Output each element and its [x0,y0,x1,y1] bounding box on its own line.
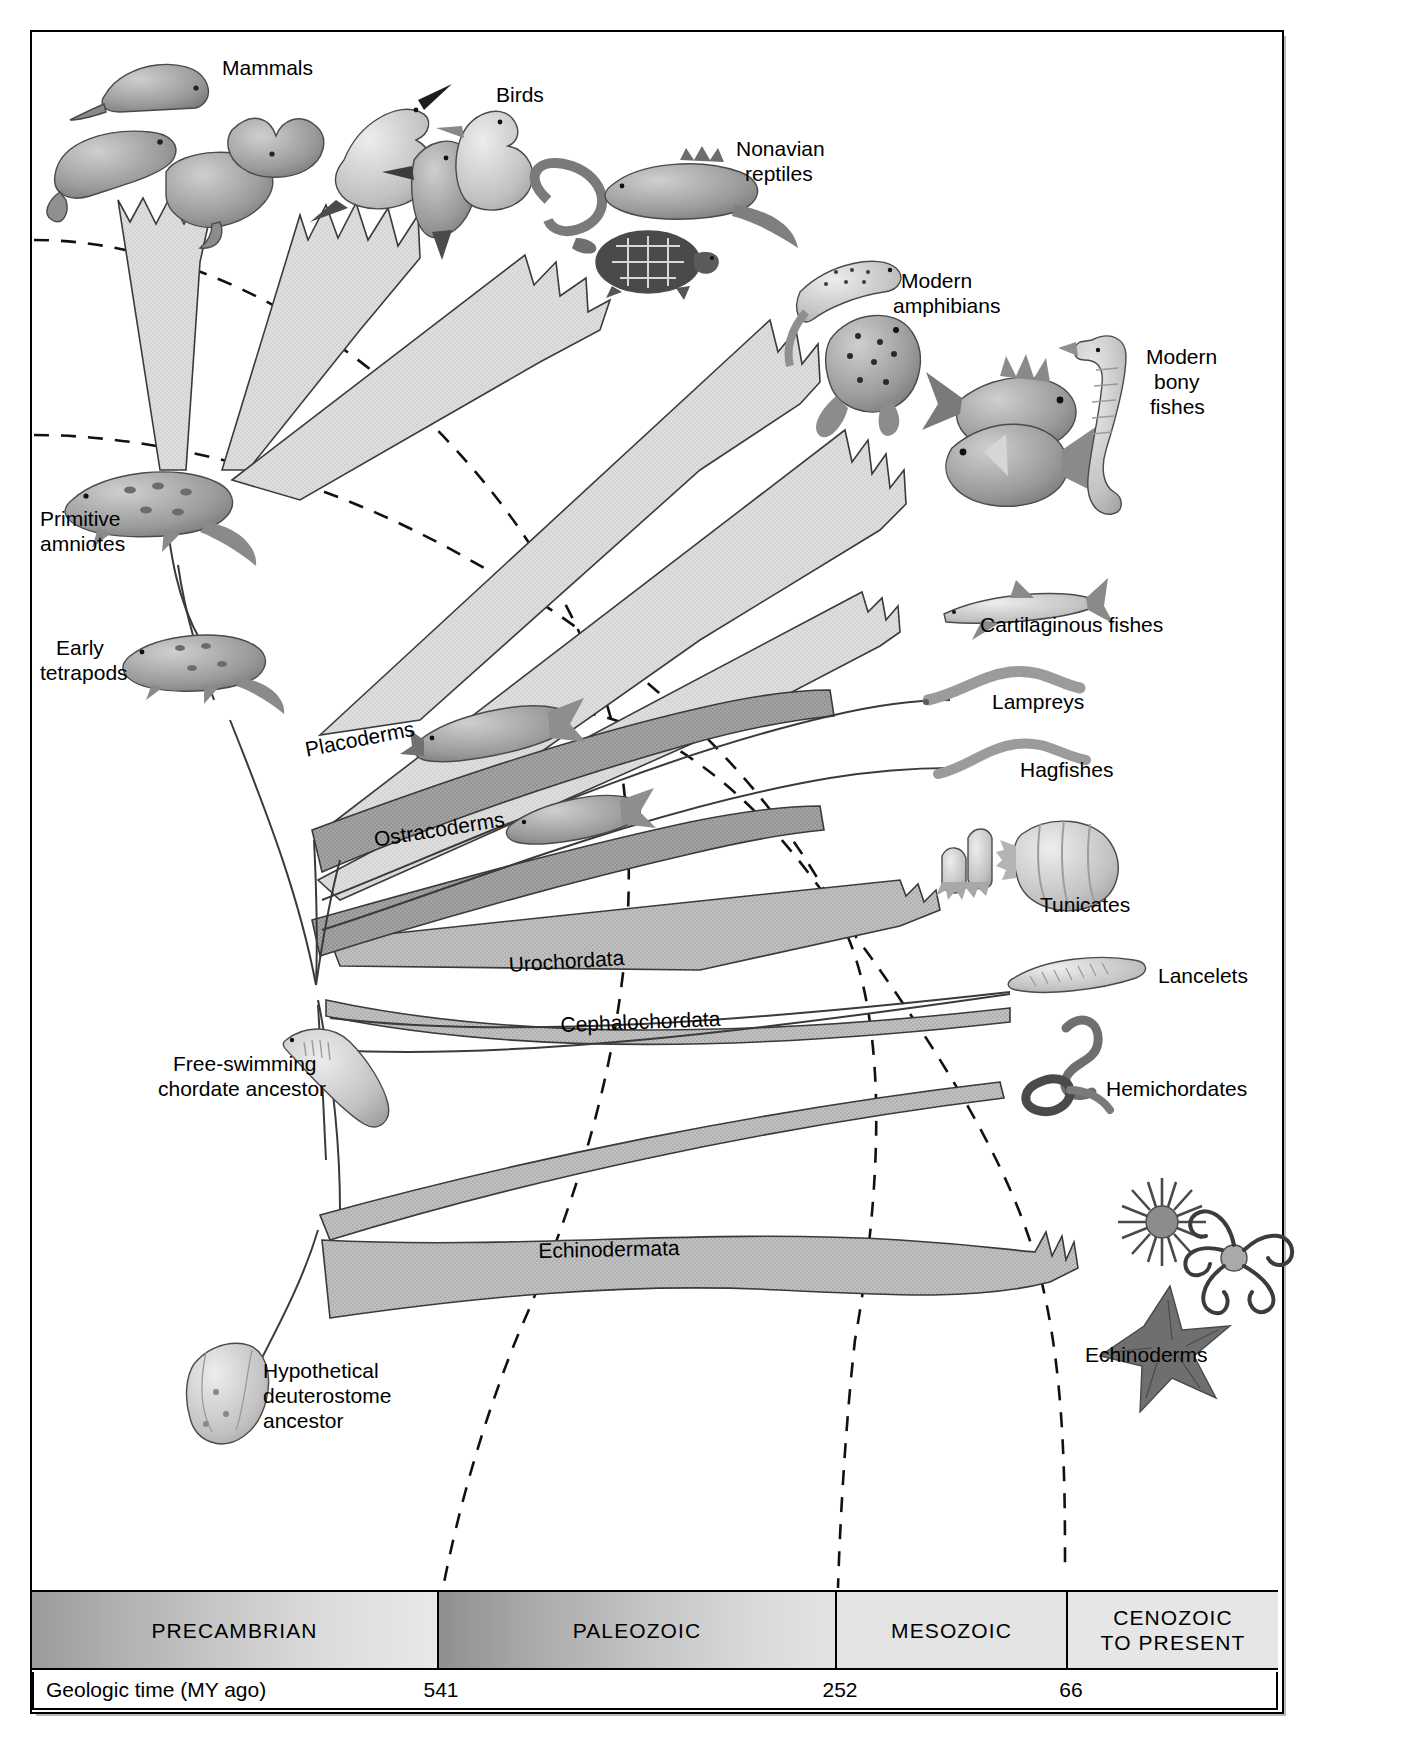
clade-bands [118,197,1078,1318]
label-free-swimming-line2: chordate ancestor [158,1076,326,1101]
illus-acorn-worm [1026,1020,1110,1112]
label-modern-bony-fishes-line3: fishes [1150,394,1205,419]
illus-bat [228,118,324,177]
geologic-time-label: Geologic time (MY ago) [46,1678,266,1702]
illus-bony-fish-lower [946,424,1102,506]
label-modern-bony-fishes-line1: Modern [1146,344,1217,369]
label-cartilaginous-fishes: Cartilaginous fishes [980,612,1163,637]
band-echinodermata [322,1232,1078,1318]
line-node-fan-1 [314,840,317,985]
label-modern-amphibians-line2: amphibians [893,293,1000,318]
era-mesozoic-label: MESOZOIC [891,1618,1012,1643]
ancestor-lines [162,480,340,1382]
illus-otter [47,131,176,221]
label-hagfishes: Hagfishes [1020,757,1113,782]
illus-turtle [596,231,719,300]
era-cenozoic-label-line2: TO PRESENT [1101,1631,1246,1654]
label-nonavian-reptiles-line2: reptiles [745,161,813,186]
illus-snake [535,163,602,254]
illus-lancelet [1008,957,1145,992]
label-tunicates: Tunicates [1040,892,1130,917]
label-primitive-amniotes-line1: Primitive [40,506,121,531]
label-primitive-amniotes-line2: amniotes [40,531,125,556]
label-hypothetical-line1: Hypothetical [263,1358,379,1383]
band-mammals [118,197,208,470]
illus-brittle-star [1185,1211,1292,1313]
label-mammals: Mammals [222,55,313,80]
figure-root: Mammals Birds Nonavian reptiles Modern a… [0,0,1402,1742]
phylogeny-canvas [0,0,1402,1742]
illus-frog [816,315,920,437]
label-hemichordates: Hemichordates [1106,1076,1247,1101]
label-free-swimming-line1: Free-swimming [173,1051,317,1076]
time-tick-66: 66 [1059,1678,1082,1702]
label-birds: Birds [496,82,544,107]
label-lancelets: Lancelets [1158,963,1248,988]
label-echinodermata: Echinodermata [538,1235,680,1263]
illus-deuterostome-ancestor [187,1343,269,1444]
illus-shrew [70,64,208,120]
line-tetrapod-to-node [230,720,316,985]
illus-early-tetrapod [123,635,284,714]
time-tick-252: 252 [822,1678,857,1702]
label-modern-amphibians-line1: Modern [901,268,972,293]
era-precambrian: PRECAMBRIAN [32,1592,439,1668]
era-paleozoic-label: PALEOZOIC [573,1618,702,1643]
time-tick-541: 541 [423,1678,458,1702]
label-hypothetical-line3: ancestor [263,1408,344,1433]
band-hemichordates [320,1082,1004,1240]
label-early-tetrapods-line1: Early [56,635,104,660]
era-paleozoic: PALEOZOIC [439,1592,837,1668]
label-modern-bony-fishes-line2: bony [1154,369,1200,394]
label-early-tetrapods-line2: tetrapods [40,660,128,685]
label-lampreys: Lampreys [992,689,1084,714]
era-mesozoic: MESOZOIC [837,1592,1068,1668]
era-cenozoic-label-line1: CENOZOIC [1113,1606,1233,1629]
label-hypothetical-line2: deuterostome [263,1383,391,1408]
era-cenozoic: CENOZOIC TO PRESENT [1068,1592,1278,1668]
label-nonavian-reptiles-line1: Nonavian [736,136,825,161]
era-precambrian-label: PRECAMBRIAN [151,1618,317,1643]
label-echinoderms: Echinoderms [1085,1342,1208,1367]
illus-tunicate-tube [936,829,992,900]
geologic-time-row: Geologic time (MY ago) 541 252 66 [32,1672,1278,1710]
geologic-era-bar: PRECAMBRIAN PALEOZOIC MESOZOIC CENOZOIC … [32,1590,1278,1670]
